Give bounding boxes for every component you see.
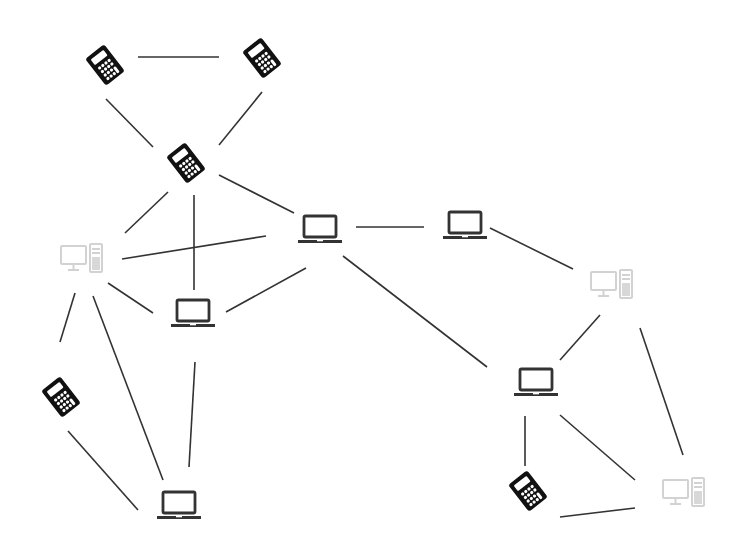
edge-line — [560, 315, 600, 360]
edge-line — [219, 92, 262, 145]
edge-line — [125, 192, 168, 233]
calculator-icon — [506, 469, 550, 513]
laptop-icon — [169, 297, 217, 331]
edge-line — [560, 415, 635, 480]
edge-line — [189, 362, 195, 467]
edge-line — [108, 283, 153, 313]
laptop-icon — [441, 209, 489, 243]
calculator-icon — [164, 141, 208, 185]
laptop-icon — [512, 366, 560, 400]
desktop-icon — [58, 240, 106, 276]
laptop-icon — [155, 489, 203, 523]
edge-line — [219, 175, 294, 213]
calculator-icon — [83, 43, 127, 87]
laptop-icon — [296, 213, 344, 247]
edge-line — [560, 508, 635, 517]
desktop-icon — [588, 266, 636, 302]
edge-line — [226, 268, 306, 312]
edge-line — [106, 99, 153, 147]
edge-line — [343, 256, 487, 367]
edge-line — [93, 296, 163, 480]
edge-line — [490, 228, 573, 269]
desktop-icon — [660, 474, 708, 510]
edge-line — [60, 293, 75, 342]
edge-line — [68, 431, 138, 510]
calculator-icon — [240, 36, 284, 80]
edge-line — [640, 328, 683, 455]
calculator-icon — [39, 375, 83, 419]
